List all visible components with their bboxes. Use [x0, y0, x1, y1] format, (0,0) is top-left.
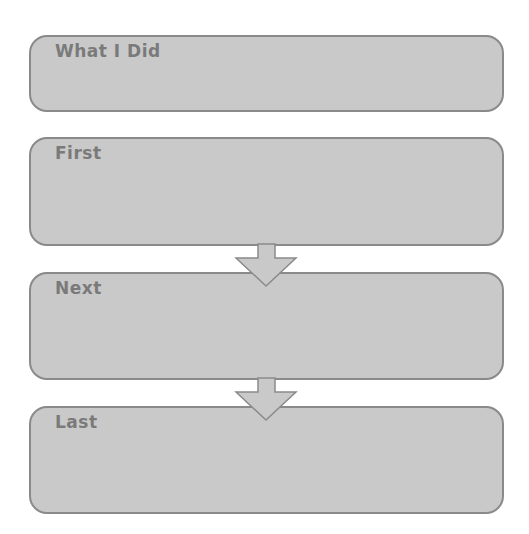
down-arrow-icon: [0, 0, 529, 534]
